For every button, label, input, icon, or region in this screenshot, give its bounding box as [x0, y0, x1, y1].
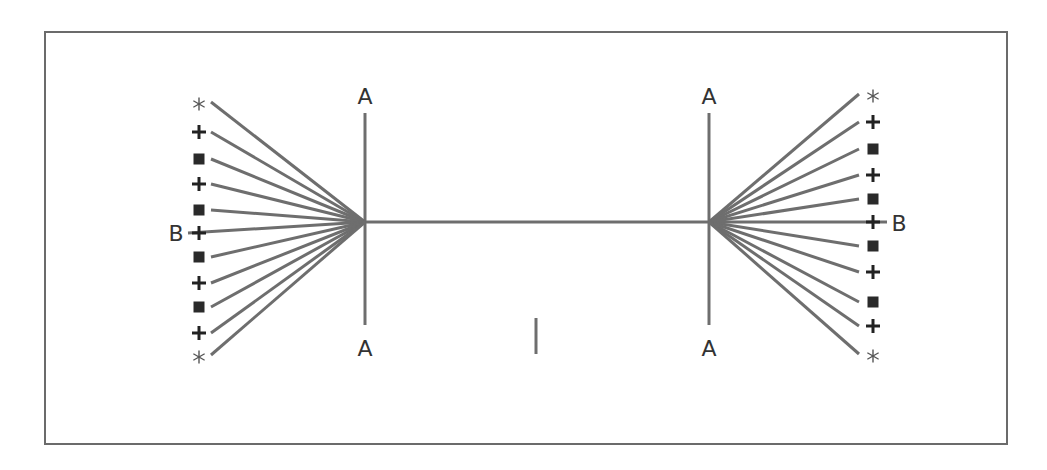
- label-left-bottom-a: A: [357, 336, 372, 361]
- left-fan-ray: [211, 222, 365, 355]
- right-marker-plus-3-icon: [866, 168, 880, 182]
- right-marker-plus-1-icon: [866, 115, 880, 129]
- left-marker-plus-3-icon: [192, 177, 206, 191]
- left-marker-star-10-icon: [193, 351, 204, 364]
- left-fan-ray: [211, 132, 365, 222]
- label-right-b: B: [891, 211, 906, 236]
- right-marker-square-4-icon: [868, 194, 879, 205]
- right-marker-square-8-icon: [868, 297, 879, 308]
- right-marker-plus-9-icon: [866, 319, 880, 333]
- right-fan-ray: [709, 222, 859, 272]
- right-marker-column: [866, 90, 880, 363]
- left-marker-square-4-icon: [194, 205, 205, 216]
- network-diagram: A A A A B B: [0, 0, 1047, 470]
- right-fan-ray: [709, 222, 859, 326]
- right-marker-star-0-icon: [867, 90, 878, 103]
- left-fan-ray: [211, 222, 365, 307]
- right-marker-plus-7-icon: [866, 265, 880, 279]
- left-marker-square-6-icon: [194, 252, 205, 263]
- left-fan-rays: [188, 102, 365, 355]
- label-right-top-a: A: [701, 84, 716, 109]
- label-right-bottom-a: A: [701, 336, 716, 361]
- left-marker-plus-5-icon: [192, 226, 206, 240]
- left-marker-square-8-icon: [194, 302, 205, 313]
- right-fan-rays: [709, 94, 887, 354]
- left-marker-plus-7-icon: [192, 276, 206, 290]
- right-marker-square-2-icon: [868, 144, 879, 155]
- left-marker-column: [192, 98, 206, 364]
- left-marker-plus-1-icon: [192, 125, 206, 139]
- right-marker-star-10-icon: [867, 350, 878, 363]
- left-marker-star-0-icon: [193, 98, 204, 111]
- right-marker-plus-5-icon: [866, 215, 880, 229]
- label-left-b: B: [168, 221, 183, 246]
- right-fan-ray: [709, 122, 859, 222]
- left-marker-plus-9-icon: [192, 326, 206, 340]
- right-fan-ray: [709, 175, 859, 222]
- right-marker-square-6-icon: [868, 241, 879, 252]
- left-marker-square-2-icon: [194, 154, 205, 165]
- label-left-top-a: A: [357, 84, 372, 109]
